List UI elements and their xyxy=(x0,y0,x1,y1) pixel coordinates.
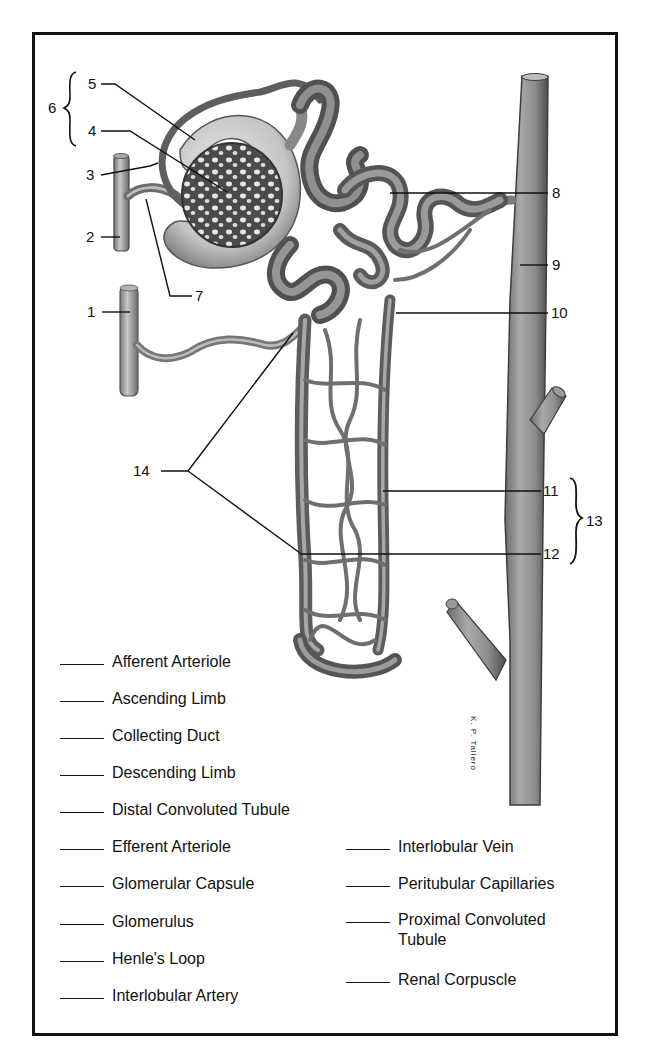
legend-item-peritubular-capillaries: Peritubular Capillaries xyxy=(346,874,555,894)
legend-item-efferent-arteriole: Efferent Arteriole xyxy=(60,837,231,857)
legend-item-descending-limb: Descending Limb xyxy=(60,763,236,783)
callout-4: 4 xyxy=(88,123,96,139)
answer-blank[interactable] xyxy=(60,775,104,776)
callout-14: 14 xyxy=(133,463,150,479)
legend-item-interlobular-vein: Interlobular Vein xyxy=(346,837,514,857)
answer-blank[interactable] xyxy=(60,738,104,739)
brace-13 xyxy=(570,478,582,564)
answer-blank[interactable] xyxy=(346,982,390,983)
answer-blank[interactable] xyxy=(346,886,390,887)
legend-item-collecting-duct: Collecting Duct xyxy=(60,726,220,746)
callout-2: 2 xyxy=(86,229,94,245)
legend-item-interlobular-artery: Interlobular Artery xyxy=(60,986,238,1006)
legend-item-glomerular-capsule: Glomerular Capsule xyxy=(60,874,254,894)
answer-blank[interactable] xyxy=(346,849,390,850)
answer-blank[interactable] xyxy=(60,849,104,850)
legend-item-ascending-limb: Ascending Limb xyxy=(60,689,226,709)
interlobular-vein xyxy=(446,74,567,806)
legend-item-proximal-convoluted-tubule: Proximal ConvolutedTubule xyxy=(346,910,546,950)
legend-item-henles-loop: Henle's Loop xyxy=(60,949,205,969)
brace-6 xyxy=(64,72,76,146)
callout-13: 13 xyxy=(586,513,603,529)
callout-11: 11 xyxy=(543,483,559,499)
glomerulus xyxy=(182,143,282,247)
answer-blank[interactable] xyxy=(60,998,104,999)
answer-blank[interactable] xyxy=(60,701,104,702)
interlobular-artery-lower xyxy=(120,285,300,396)
legend-item-distal-convoluted-tubule: Distal Convoluted Tubule xyxy=(60,800,290,820)
legend-item-renal-corpuscle: Renal Corpuscle xyxy=(346,970,516,990)
legend-item-afferent-arteriole: Afferent Arteriole xyxy=(60,652,231,672)
answer-blank[interactable] xyxy=(60,924,104,925)
callout-12: 12 xyxy=(543,546,560,562)
callout-3: 3 xyxy=(86,167,94,183)
callout-7: 7 xyxy=(195,288,203,304)
callout-9: 9 xyxy=(552,257,560,273)
legend-item-glomerulus: Glomerulus xyxy=(60,912,194,932)
answer-blank[interactable] xyxy=(60,886,104,887)
answer-blank[interactable] xyxy=(346,922,390,923)
callout-1: 1 xyxy=(87,304,95,320)
nephron-illustration xyxy=(0,0,645,1053)
answer-blank[interactable] xyxy=(60,664,104,665)
callout-8: 8 xyxy=(552,185,560,201)
callout-6: 6 xyxy=(48,100,56,116)
answer-blank[interactable] xyxy=(60,961,104,962)
answer-blank[interactable] xyxy=(60,812,104,813)
callout-5: 5 xyxy=(88,76,96,92)
callout-10: 10 xyxy=(551,305,568,321)
artist-signature: K. P. Tallero xyxy=(469,716,478,771)
